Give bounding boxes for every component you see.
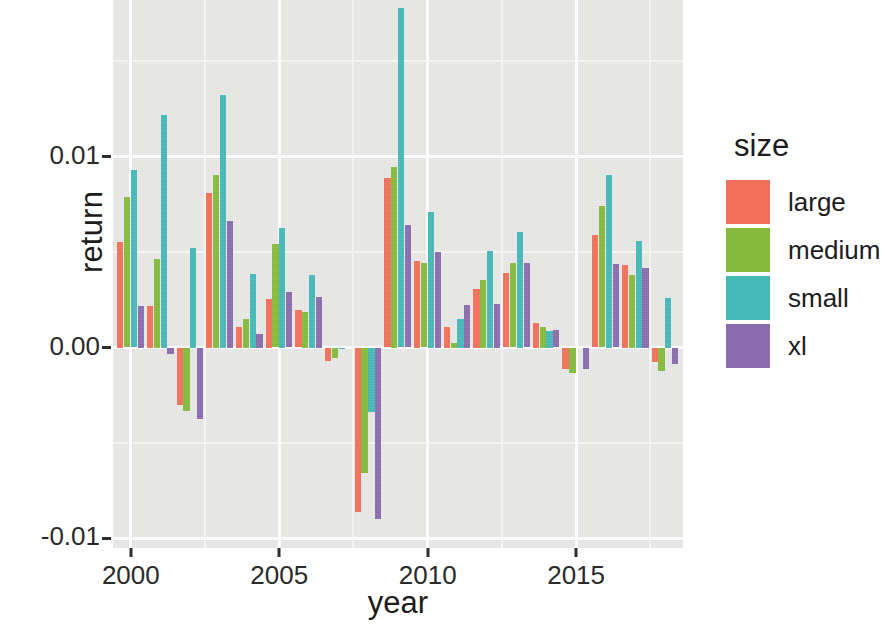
bar bbox=[325, 348, 331, 361]
bar bbox=[243, 319, 249, 348]
bar bbox=[368, 348, 374, 413]
bar bbox=[533, 323, 539, 348]
grid-line-minor-vertical bbox=[649, 0, 651, 548]
bar bbox=[606, 175, 612, 348]
legend-swatch-icon bbox=[726, 276, 770, 320]
chart-root: return year 0.010.00-0.01 20002005201020… bbox=[0, 0, 890, 633]
bar bbox=[622, 265, 628, 347]
legend-swatch-icon bbox=[726, 324, 770, 368]
bar bbox=[435, 252, 441, 347]
bar bbox=[636, 241, 642, 348]
bar bbox=[546, 331, 552, 347]
bar bbox=[540, 327, 546, 347]
x-axis-tick-mark bbox=[575, 548, 578, 557]
bar bbox=[503, 273, 509, 347]
y-axis-tick-label: 0.00 bbox=[10, 331, 100, 362]
y-axis-tick-label: -0.01 bbox=[10, 521, 100, 552]
bar bbox=[154, 259, 160, 348]
bar bbox=[642, 268, 648, 347]
y-axis-tick-mark bbox=[102, 346, 111, 349]
bar bbox=[444, 327, 450, 348]
bar bbox=[250, 274, 256, 348]
legend-item-large[interactable]: large bbox=[726, 178, 890, 226]
bar bbox=[665, 298, 671, 348]
bar bbox=[309, 275, 315, 348]
bar bbox=[457, 319, 463, 348]
bar bbox=[220, 95, 226, 347]
bar bbox=[355, 348, 361, 512]
bar bbox=[138, 306, 144, 347]
bar bbox=[183, 348, 189, 411]
bar bbox=[124, 197, 130, 348]
bar bbox=[562, 348, 568, 369]
bar bbox=[177, 348, 183, 405]
bar bbox=[421, 263, 427, 347]
bar bbox=[316, 297, 322, 348]
legend-item-label: xl bbox=[788, 331, 807, 362]
bar bbox=[190, 248, 196, 347]
x-axis-tick-label: 2015 bbox=[547, 560, 605, 591]
x-axis-tick-mark bbox=[129, 548, 132, 557]
y-axis-tick-mark bbox=[102, 537, 111, 540]
bar bbox=[480, 280, 486, 348]
bar bbox=[451, 343, 457, 348]
bar bbox=[161, 115, 167, 348]
bar bbox=[487, 251, 493, 347]
x-axis-tick-label: 2010 bbox=[399, 560, 457, 591]
legend-item-label: medium bbox=[788, 235, 880, 266]
legend: size largemediumsmallxl bbox=[726, 128, 890, 370]
y-axis-tick-label: 0.01 bbox=[10, 140, 100, 171]
bar bbox=[391, 167, 397, 347]
bar bbox=[147, 306, 153, 348]
bar bbox=[206, 193, 212, 348]
bar bbox=[599, 206, 605, 347]
bar bbox=[213, 175, 219, 348]
bar bbox=[524, 263, 530, 347]
legend-item-xl[interactable]: xl bbox=[726, 322, 890, 370]
bar bbox=[295, 310, 301, 347]
legend-swatch-icon bbox=[726, 228, 770, 272]
bar bbox=[405, 225, 411, 347]
legend-title: size bbox=[734, 128, 890, 164]
legend-item-small[interactable]: small bbox=[726, 274, 890, 322]
grid-line-major-vertical bbox=[575, 0, 578, 548]
x-axis-tick-mark bbox=[426, 548, 429, 557]
legend-item-label: small bbox=[788, 283, 849, 314]
bar bbox=[494, 304, 500, 348]
bar bbox=[398, 8, 404, 348]
bar bbox=[302, 312, 308, 347]
bar bbox=[517, 232, 523, 348]
bar bbox=[117, 242, 123, 348]
grid-line-major-horizontal bbox=[113, 537, 683, 540]
bar bbox=[272, 244, 278, 347]
bar bbox=[339, 348, 345, 350]
bar bbox=[227, 221, 233, 347]
bar bbox=[629, 275, 635, 348]
legend-items: largemediumsmallxl bbox=[726, 178, 890, 370]
bar bbox=[592, 235, 598, 348]
bar bbox=[375, 348, 381, 520]
bar bbox=[279, 228, 285, 347]
bar bbox=[414, 261, 420, 348]
bar bbox=[473, 289, 479, 347]
bar bbox=[464, 305, 470, 348]
bar bbox=[197, 348, 203, 420]
x-axis-tick-mark bbox=[278, 548, 281, 557]
bar bbox=[131, 170, 137, 348]
bar bbox=[658, 348, 664, 372]
bar bbox=[266, 299, 272, 348]
bar bbox=[286, 292, 292, 347]
bar bbox=[672, 348, 678, 364]
legend-swatch-icon bbox=[726, 180, 770, 224]
bar bbox=[583, 348, 589, 369]
y-axis-ticks: 0.010.00-0.01 bbox=[0, 0, 100, 633]
bar bbox=[613, 264, 619, 347]
bar bbox=[553, 330, 559, 347]
bar bbox=[167, 348, 173, 355]
legend-item-medium[interactable]: medium bbox=[726, 226, 890, 274]
bar bbox=[569, 348, 575, 374]
x-axis-tick-label: 2000 bbox=[102, 560, 160, 591]
x-axis-tick-label: 2005 bbox=[250, 560, 308, 591]
bar bbox=[510, 263, 516, 348]
bar bbox=[361, 348, 367, 473]
